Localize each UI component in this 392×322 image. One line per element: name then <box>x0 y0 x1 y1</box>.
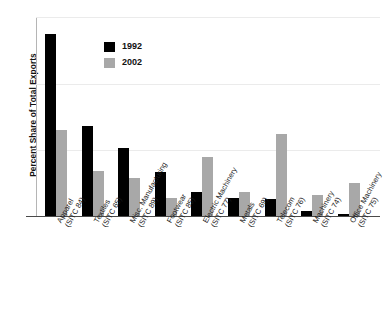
bar-1992-apparel <box>45 34 56 217</box>
legend-label-1992: 1992 <box>122 42 142 51</box>
legend-swatch-1992 <box>104 42 115 52</box>
gridline <box>36 17 380 18</box>
legend-label-2002: 2002 <box>122 58 142 67</box>
legend-swatch-2002 <box>104 58 115 68</box>
chart-legend: 19922002 <box>104 40 142 72</box>
gridline <box>36 84 380 85</box>
plot-area <box>36 17 380 217</box>
legend-item-2002: 2002 <box>104 56 142 69</box>
legend-item-1992: 1992 <box>104 40 142 53</box>
bar-chart: Percent Share of Total Exports 0123 Appa… <box>0 0 392 322</box>
